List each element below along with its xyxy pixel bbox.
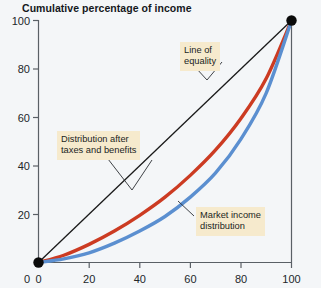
y-tick-label-100: 100 bbox=[12, 15, 30, 27]
x-tick-label-80: 80 bbox=[235, 273, 247, 285]
x-axis-ticks bbox=[89, 263, 291, 269]
annotation-distribution-after-taxes: Distribution after taxes and benefits bbox=[57, 131, 140, 160]
x-tick-label-0: 0 bbox=[35, 273, 41, 285]
x-tick-label-20: 20 bbox=[83, 273, 95, 285]
annotation-market-income-distribution: Market income distribution bbox=[196, 207, 265, 236]
marker-origin bbox=[33, 257, 43, 267]
x-tick-label-40: 40 bbox=[134, 273, 146, 285]
annotation-line-of-equality: Line of equality bbox=[180, 42, 220, 71]
y-tick-label-60: 60 bbox=[18, 112, 30, 124]
leader-line-market bbox=[178, 201, 194, 216]
x-tick-label-60: 60 bbox=[184, 273, 196, 285]
plot-area: 100 80 60 40 20 0 0 20 40 60 80 100 bbox=[0, 0, 321, 288]
y-tick-label-40: 40 bbox=[18, 160, 30, 172]
y-tick-label-20: 20 bbox=[18, 209, 30, 221]
y-tick-label-80: 80 bbox=[18, 63, 30, 75]
y-tick-label-0: 0 bbox=[24, 273, 30, 285]
y-axis-ticks bbox=[33, 21, 39, 215]
lorenz-curve-chart: Cumulative percentage of income 100 80 6… bbox=[0, 0, 321, 288]
x-tick-label-100: 100 bbox=[282, 273, 300, 285]
marker-top-right bbox=[286, 15, 296, 25]
